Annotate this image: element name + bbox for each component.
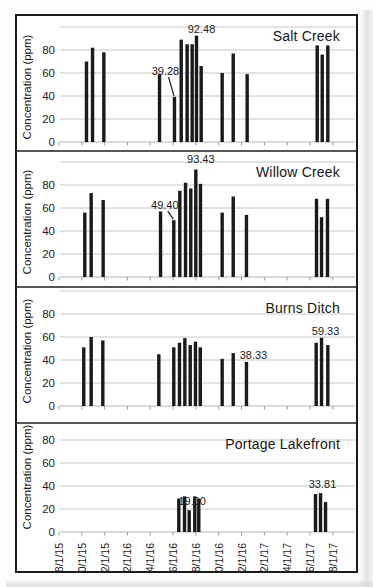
bar [316, 45, 319, 142]
leader-line [168, 77, 174, 96]
annotation-label: 19.00 [178, 495, 206, 507]
x-tick-label: 4/1/17 [281, 543, 293, 571]
bar [89, 193, 92, 277]
bar [157, 354, 160, 406]
bar [245, 74, 248, 142]
bar [83, 213, 86, 277]
figure: 020406080Concentration (ppm)92.4839.2802… [15, 14, 358, 573]
y-tick-label: 60 [42, 331, 55, 343]
x-tick-label: 8/1/15 [53, 543, 65, 571]
annotation-label: 38.33 [240, 349, 268, 361]
x-tick-label: 10/1/15 [76, 543, 88, 571]
bar [326, 45, 329, 142]
x-tick-label: 4/1/16 [144, 543, 156, 571]
bar [320, 338, 323, 406]
x-tick-label: 10/1/16 [213, 543, 225, 571]
y-tick-label: 0 [49, 271, 55, 283]
bar [101, 340, 104, 406]
x-axis-labels: 8/1/1510/1/1512/1/152/1/164/1/166/1/168/… [53, 543, 339, 571]
bar [326, 345, 329, 406]
bar [158, 74, 161, 142]
bar [314, 343, 317, 406]
bar [180, 40, 183, 142]
bar [199, 66, 202, 142]
y-tick-label: 0 [49, 400, 55, 412]
y-tick-label: 0 [49, 136, 55, 148]
bar [321, 55, 324, 142]
y-tick-label: 40 [42, 225, 55, 237]
y-tick-label: 80 [42, 179, 55, 191]
bar [315, 199, 318, 277]
x-tick-label: 2/1/16 [121, 543, 133, 571]
y-tick-label: 60 [42, 457, 55, 469]
y-tick-label: 20 [42, 377, 55, 389]
annotation-label: 93.43 [187, 153, 215, 165]
panel-title-burns-ditch: Burns Ditch [265, 300, 340, 316]
bar [91, 48, 94, 142]
figure-svg: 020406080Concentration (ppm)92.4839.2802… [17, 16, 356, 571]
bar [184, 183, 187, 277]
bar [185, 44, 188, 142]
y-axis-title: Concentration (ppm) [21, 298, 33, 403]
panel-title-salt-creek: Salt Creek [273, 28, 340, 44]
x-tick-label: 12/1/16 [236, 543, 248, 571]
bar [232, 53, 235, 142]
bar [245, 362, 248, 406]
y-tick-label: 40 [42, 90, 55, 102]
bar [232, 197, 235, 278]
bar [102, 52, 105, 142]
annotation-label: 59.33 [312, 325, 340, 337]
bar [232, 353, 235, 406]
bar [189, 345, 192, 406]
y-axis-title: Concentration (ppm) [21, 169, 33, 274]
bar [101, 200, 104, 277]
bar [187, 510, 190, 532]
scan-shadow-right [360, 10, 373, 587]
bar [220, 359, 223, 406]
bar [172, 220, 175, 277]
annotation-label: 92.48 [188, 23, 216, 35]
bar [194, 170, 197, 277]
bar [159, 211, 162, 277]
scan-shadow-bottom [6, 579, 373, 587]
y-tick-label: 40 [42, 480, 55, 492]
panel-title-willow-creek: Willow Creek [256, 164, 340, 180]
bar [173, 97, 176, 142]
bar [178, 191, 181, 277]
y-tick-label: 20 [42, 113, 55, 125]
x-tick-label: 8/1/17 [327, 543, 339, 571]
bar [326, 199, 329, 277]
annotation-label: 39.28 [152, 65, 180, 77]
panel-title-portage-lakefront: Portage Lakefront [225, 436, 340, 452]
annotation-label: 33.81 [309, 478, 337, 490]
bar [85, 62, 88, 143]
y-tick-label: 20 [42, 503, 55, 515]
bar [199, 184, 202, 277]
bar [195, 36, 198, 142]
y-axis-title: Concentration (ppm) [21, 34, 33, 139]
bar [183, 338, 186, 406]
bar [199, 347, 202, 406]
bar [82, 347, 85, 406]
y-tick-label: 60 [42, 67, 55, 79]
bar [89, 337, 92, 406]
x-tick-label: 6/1/17 [304, 543, 316, 571]
y-tick-label: 60 [42, 202, 55, 214]
bar [172, 347, 175, 406]
bar [190, 44, 193, 142]
bar [320, 217, 323, 277]
bar [178, 343, 181, 406]
bar [189, 188, 192, 277]
annotation-label: 49.40 [151, 199, 179, 211]
y-tick-label: 80 [42, 434, 55, 446]
bar [220, 213, 223, 277]
bar [194, 342, 197, 406]
x-tick-label: 12/1/15 [99, 543, 111, 571]
bar [324, 502, 327, 532]
bar [319, 493, 322, 532]
bar [220, 73, 223, 142]
y-tick-label: 80 [42, 308, 55, 320]
x-tick-label: 2/1/17 [258, 543, 270, 571]
bar [245, 215, 248, 277]
y-tick-label: 80 [42, 44, 55, 56]
